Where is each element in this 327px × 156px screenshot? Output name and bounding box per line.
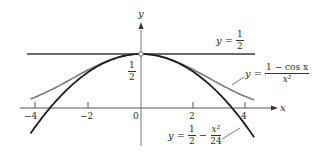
y-tick-half: 12 — [128, 61, 136, 82]
y-axis-label: y — [138, 9, 144, 19]
tick-label-4: 4 — [241, 112, 247, 121]
leader-poly — [222, 128, 240, 139]
point-open-circle — [139, 52, 144, 57]
tick-label-0: 0 — [133, 112, 139, 121]
x-axis-arrow-icon — [271, 106, 278, 111]
annotation-poly: y=12−x²24 — [168, 125, 222, 146]
annotation-cos: y=1 − cos xx² — [245, 63, 309, 84]
leader-cos — [232, 77, 244, 85]
x-ticks — [35, 102, 245, 108]
x-axis-label: x — [280, 103, 286, 113]
y-axis-arrow-icon — [139, 22, 144, 29]
tick-label-2: 2 — [189, 112, 195, 121]
annotation-y-half: y=12 — [216, 30, 244, 51]
tick-label-neg2: −2 — [80, 112, 93, 121]
tick-label-neg4: −4 — [24, 112, 37, 121]
